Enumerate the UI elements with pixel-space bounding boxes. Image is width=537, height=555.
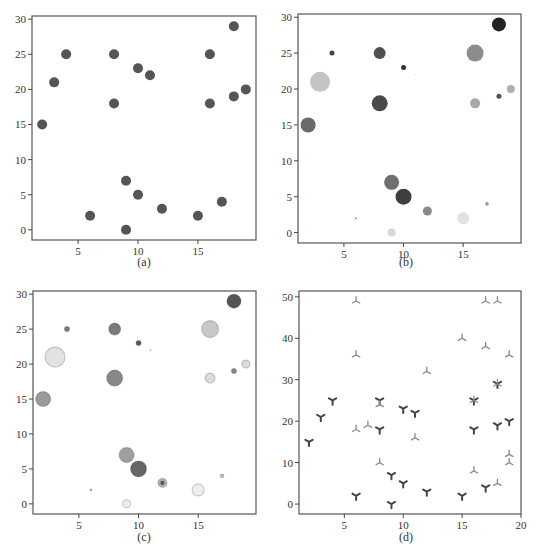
data-point [158,478,167,487]
y-tick-label: 0 [22,498,28,510]
tri_up-marker [376,458,383,464]
caption-b: (b) [376,255,436,270]
tri_up-marker [494,297,501,303]
data-point [85,211,95,221]
tri_down-marker [423,490,430,496]
y-tick-label: 0 [21,224,27,236]
data-point [49,77,59,87]
x-tick-label: 5 [342,519,348,531]
tri_down-marker [352,494,359,500]
tri_up-marker [506,450,513,456]
tri_up-marker [494,479,501,485]
tri_up-marker [470,396,477,402]
data-point [231,369,236,374]
caption-a: (a) [114,255,174,270]
y-tick-label: 20 [15,83,27,95]
series-series-2 [352,297,512,486]
y-tick-label: 5 [21,189,27,201]
tri_down-marker [400,407,407,413]
data-point [227,294,241,308]
tri_up-marker [506,351,513,357]
tri_down-marker [470,427,477,433]
data-point [220,474,224,478]
tri_up-marker [482,342,489,348]
tri_up-marker [411,434,418,440]
tri_down-marker [400,481,407,487]
data-point [372,95,388,111]
tri_up-marker [376,400,383,406]
y-axis: 01020304050 [282,291,299,510]
data-point [401,65,406,70]
tri_down-marker [506,419,513,425]
data-point [123,500,131,508]
data-point [145,70,155,80]
data-point [384,175,399,190]
y-tick-label: 20 [282,415,294,427]
data-point [90,489,92,491]
y-axis: 051015202530 [15,13,32,236]
data-point [109,49,119,59]
data-point [119,447,134,462]
tri_up-marker [506,458,513,464]
y-tick-label: 15 [15,118,27,130]
data-point [217,197,227,207]
data-point [355,217,357,219]
data-point [192,484,204,496]
x-tick-label: 15 [457,519,469,531]
tri_down-marker [317,415,324,421]
tri_down-marker [376,398,383,404]
y-tick-label: 40 [282,332,294,344]
tri_down-marker [470,398,477,404]
data-point [37,119,47,129]
data-point [241,84,251,94]
tri_down-marker [388,502,395,508]
data-point [150,349,151,350]
data-point [423,207,432,216]
data-point [492,17,506,31]
plot-frame [33,291,256,514]
data-point [61,49,71,59]
data-point [36,392,51,407]
plot-frame [32,16,256,240]
tri_up-marker [364,421,371,427]
tri_up-marker [470,467,477,473]
data-point [415,74,416,75]
tri_down-marker [305,440,312,446]
data-point [45,347,65,367]
data-point [388,229,396,237]
data-point [136,341,141,346]
data-point [457,212,469,224]
y-tick-label: 0 [287,227,293,239]
x-tick-label: 20 [516,519,528,531]
y-axis: 051015202530 [281,11,298,238]
y-tick-label: 30 [282,374,294,386]
y-tick-label: 30 [281,11,293,23]
tri_down-marker [458,494,465,500]
data-point [107,370,123,386]
data-point [485,202,489,206]
x-tick-label: 15 [193,519,205,531]
data-point [470,98,480,108]
y-tick-label: 10 [16,428,28,440]
tri_up-marker [482,297,489,303]
data-point [507,85,515,93]
y-tick-label: 25 [16,323,28,335]
y-tick-label: 5 [287,191,293,203]
data-point [133,190,143,200]
data-point [193,211,203,221]
data-point [205,373,215,383]
y-tick-label: 10 [281,155,293,167]
y-tick-label: 25 [281,47,293,59]
y-tick-label: 15 [281,119,293,131]
data-point [133,63,143,73]
y-tick-label: 10 [282,457,294,469]
y-tick-label: 0 [288,498,294,510]
data-point [109,98,119,108]
data-point [205,49,215,59]
plot-frame [298,14,521,243]
series-points-varied-size-gray [301,17,515,236]
data-point [374,47,386,59]
data-point [396,189,412,205]
x-axis: 51015 [76,514,204,531]
tri_up-marker [352,425,359,431]
